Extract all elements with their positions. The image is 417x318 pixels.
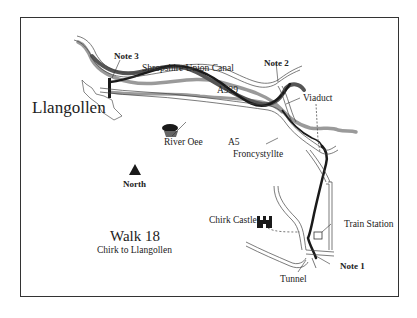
a539-label: A539: [217, 86, 238, 96]
note2-label: Note 2: [264, 59, 289, 68]
village-label: Froncystyllte: [233, 150, 283, 160]
town-llangollen: Llangollen: [32, 99, 106, 116]
trees-icon: [162, 124, 178, 137]
castle-label: Chirk Castle: [209, 216, 257, 226]
note3-label: Note 3: [114, 52, 139, 61]
walk-title: Walk 18: [110, 229, 160, 244]
north-triangle-icon: [129, 164, 141, 175]
road-chirk: [246, 150, 334, 268]
walk-subtitle: Chirk to Llangollen: [97, 246, 172, 256]
walk-route-south: [308, 146, 327, 258]
station-label: Train Station: [344, 220, 394, 230]
railway-south: [312, 258, 316, 268]
canal-label: Shropshire Union Canal: [142, 64, 234, 74]
note1-label: Note 1: [340, 262, 365, 271]
castle-footpath: [268, 228, 300, 232]
note3-marker: [108, 78, 111, 98]
viaduct-label: Viaduct: [303, 94, 333, 104]
compass-label: North: [123, 180, 146, 189]
a5-label: A5: [228, 138, 240, 148]
castle-icon: [257, 216, 272, 228]
river-label: River Oee: [164, 138, 203, 148]
station-square-icon: [314, 232, 322, 239]
tunnel-label: Tunnel: [280, 275, 307, 285]
